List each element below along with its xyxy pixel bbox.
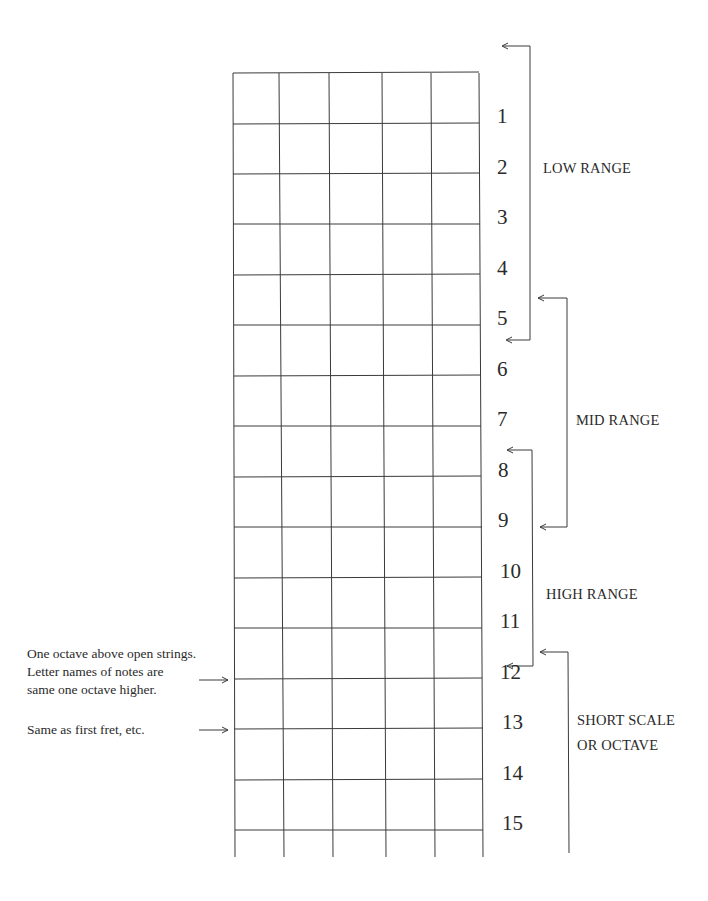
fretboard-grid (233, 72, 483, 857)
short-scale-label-line1: SHORT SCALE (577, 710, 675, 730)
fret-number-15: 15 (502, 813, 523, 834)
fret-number-12: 12 (500, 662, 521, 683)
fret-number-9: 9 (498, 510, 509, 531)
fret-number-2: 2 (497, 157, 508, 178)
short-scale-bracket (540, 649, 569, 853)
fret-number-8: 8 (498, 460, 509, 481)
low-range-bracket (502, 43, 530, 343)
fret-number-6: 6 (497, 359, 508, 380)
high-range-label: HIGH RANGE (546, 584, 638, 604)
octave-note-line2: Letter names of notes are (27, 663, 163, 681)
fret-number-1: 1 (497, 106, 508, 127)
fret-number-10: 10 (500, 561, 521, 582)
first-fret-note: Same as first fret, etc. (27, 721, 145, 739)
fret-number-14: 14 (502, 763, 523, 784)
low-range-label: LOW RANGE (543, 158, 631, 178)
fret-number-4: 4 (497, 258, 508, 279)
fret-number-5: 5 (497, 308, 508, 329)
octave-arrow-icon (199, 677, 228, 683)
fret-number-13: 13 (502, 712, 523, 733)
fret-number-7: 7 (497, 409, 508, 430)
fret-number-3: 3 (497, 207, 508, 228)
mid-range-label: MID RANGE (576, 410, 660, 430)
octave-note-line3: same one octave higher. (27, 681, 157, 699)
short-scale-label-line2: OR OCTAVE (577, 735, 658, 755)
first-fret-arrow-icon (199, 727, 228, 733)
high-range-bracket (507, 447, 533, 669)
fretboard-diagram (0, 0, 708, 901)
mid-range-bracket (538, 295, 567, 530)
octave-note-line1: One octave above open strings. (27, 645, 196, 663)
fret-number-11: 11 (500, 611, 520, 632)
